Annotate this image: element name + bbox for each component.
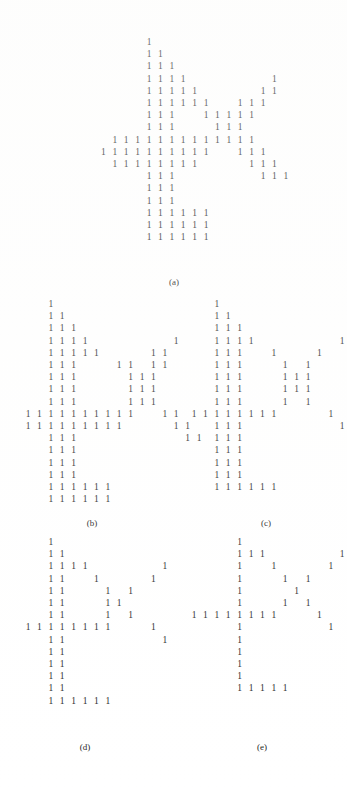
glyph-cell: 1 [191,160,199,170]
glyph-cell: 1 [191,233,199,243]
glyph-cell: 1 [202,99,210,109]
glyph-cell: 1 [179,233,187,243]
glyph-cell: 1 [201,410,209,420]
glyph-cell: 1 [58,471,66,481]
glyph-cell: 1 [270,160,278,170]
glyph-cell: 1 [122,160,130,170]
glyph-cell: 1 [191,209,199,219]
glyph-cell: 1 [58,599,66,609]
glyph-cell: 1 [236,136,244,146]
glyph-cell: 1 [184,422,192,432]
glyph-cell: 1 [179,87,187,97]
glyph-cell: 1 [270,684,278,694]
glyph-cell: 1 [47,611,55,621]
glyph-cell: 1 [58,446,66,456]
glyph-cell: 1 [127,385,135,395]
glyph-cell: 1 [149,373,157,383]
glyph-cell: 1 [145,136,153,146]
glyph-cell: 1 [24,410,32,420]
glyph-cell: 1 [70,446,78,456]
glyph-cell: 1 [213,312,221,322]
panel-a-caption: (a) [154,277,194,287]
glyph-cell: 1 [81,623,89,633]
glyph-cell: 1 [145,62,153,72]
glyph-cell: 1 [213,398,221,408]
glyph-cell: 1 [156,148,164,158]
glyph-cell: 1 [127,587,135,597]
glyph-cell: 1 [111,148,119,158]
glyph-cell: 1 [58,337,66,347]
glyph-cell: 1 [191,221,199,231]
glyph-cell: 1 [168,197,176,207]
glyph-cell: 1 [168,111,176,121]
glyph-cell: 1 [248,99,256,109]
glyph-cell: 1 [202,233,210,243]
glyph-cell: 1 [168,87,176,97]
glyph-cell: 1 [58,483,66,493]
glyph-cell: 1 [115,599,123,609]
glyph-cell: 1 [327,410,335,420]
glyph-cell: 1 [172,410,180,420]
glyph-cell: 1 [304,575,312,585]
glyph-cell: 1 [258,410,266,420]
glyph-cell: 1 [47,337,55,347]
glyph-cell: 1 [161,361,169,371]
glyph-cell: 1 [224,410,232,420]
glyph-cell: 1 [70,697,78,707]
glyph-cell: 1 [213,337,221,347]
glyph-cell: 1 [92,623,100,633]
glyph-cell: 1 [224,324,232,334]
glyph-cell: 1 [236,684,244,694]
glyph-cell: 1 [236,587,244,597]
glyph-cell: 1 [156,197,164,207]
glyph-cell: 1 [179,75,187,85]
glyph-cell: 1 [281,373,289,383]
glyph-cell: 1 [35,623,43,633]
glyph-cell: 1 [81,422,89,432]
glyph-cell: 1 [168,233,176,243]
glyph-cell: 1 [281,684,289,694]
glyph-cell: 1 [270,611,278,621]
glyph-cell: 1 [149,575,157,585]
glyph-cell: 1 [236,337,244,347]
glyph-cell: 1 [224,312,232,322]
glyph-cell: 1 [81,562,89,572]
glyph-cell: 1 [127,410,135,420]
glyph-cell: 1 [47,636,55,646]
glyph-cell: 1 [213,446,221,456]
glyph-cell: 1 [168,136,176,146]
glyph-cell: 1 [247,550,255,560]
glyph-cell: 1 [58,575,66,585]
glyph-cell: 1 [115,361,123,371]
glyph-cell: 1 [145,233,153,243]
glyph-cell: 1 [224,337,232,347]
glyph-cell: 1 [127,361,135,371]
glyph-cell: 1 [213,434,221,444]
glyph-cell: 1 [236,623,244,633]
glyph-cell: 1 [179,209,187,219]
glyph-cell: 1 [70,434,78,444]
glyph-cell: 1 [168,209,176,219]
glyph-cell: 1 [161,562,169,572]
panel-b-caption: (b) [72,518,112,528]
glyph-cell: 1 [236,349,244,359]
glyph-cell: 1 [179,99,187,109]
glyph-cell: 1 [258,483,266,493]
glyph-cell: 1 [213,123,221,133]
glyph-cell: 1 [259,160,267,170]
glyph-cell: 1 [24,623,32,633]
glyph-cell: 1 [156,99,164,109]
glyph-cell: 1 [236,148,244,158]
glyph-cell: 1 [115,410,123,420]
glyph-cell: 1 [172,422,180,432]
glyph-cell: 1 [304,398,312,408]
glyph-cell: 1 [70,422,78,432]
glyph-cell: 1 [58,385,66,395]
glyph-cell: 1 [236,459,244,469]
glyph-cell: 1 [281,575,289,585]
glyph-cell: 1 [58,672,66,682]
glyph-cell: 1 [236,410,244,420]
panel-e-caption: (e) [242,742,282,752]
glyph-cell: 1 [134,136,142,146]
glyph-cell: 1 [127,373,135,383]
